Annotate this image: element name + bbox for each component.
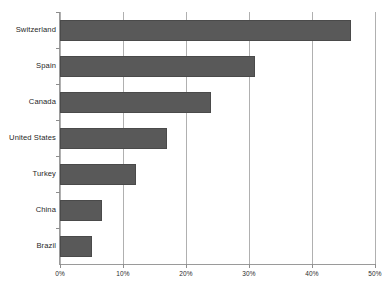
bar-china <box>60 200 102 221</box>
x-tick-mark <box>123 264 124 268</box>
category-label-turkey: Turkey <box>32 170 56 178</box>
x-tick-mark <box>186 264 187 268</box>
category-label-switzerland: Switzerland <box>16 26 56 34</box>
y-tick-mark <box>56 228 60 229</box>
bar-united-states <box>60 128 167 149</box>
bar-chart: 0%10%20%30%40%50% SwitzerlandSpainCanada… <box>0 0 389 288</box>
category-label-canada: Canada <box>29 98 56 106</box>
x-tick-mark <box>375 264 376 268</box>
x-tick-label: 10% <box>116 270 129 277</box>
x-tick-mark <box>249 264 250 268</box>
figure-caption <box>0 281 389 288</box>
x-tick-label: 20% <box>179 270 192 277</box>
y-tick-mark <box>56 192 60 193</box>
gridline-20 <box>186 12 187 264</box>
bar-switzerland <box>60 20 351 41</box>
plot-area <box>60 12 375 264</box>
bar-brazil <box>60 236 92 257</box>
gridline-40 <box>312 12 313 264</box>
y-tick-mark <box>56 48 60 49</box>
x-tick-label: 40% <box>305 270 318 277</box>
gridline-50 <box>375 12 376 264</box>
x-tick-mark <box>312 264 313 268</box>
bar-spain <box>60 56 255 77</box>
x-tick-mark <box>60 264 61 268</box>
category-label-united-states: United States <box>9 134 56 142</box>
category-label-spain: Spain <box>36 62 56 70</box>
y-tick-mark <box>56 156 60 157</box>
y-tick-mark <box>56 84 60 85</box>
category-label-brazil: Brazil <box>36 242 56 250</box>
y-tick-mark <box>56 120 60 121</box>
gridline-30 <box>249 12 250 264</box>
x-tick-label: 0% <box>55 270 65 277</box>
y-tick-mark <box>56 12 60 13</box>
x-axis-line <box>59 264 376 265</box>
category-label-china: China <box>36 206 56 214</box>
bar-turkey <box>60 164 136 185</box>
x-tick-label: 50% <box>368 270 381 277</box>
bar-canada <box>60 92 211 113</box>
x-tick-label: 30% <box>242 270 255 277</box>
